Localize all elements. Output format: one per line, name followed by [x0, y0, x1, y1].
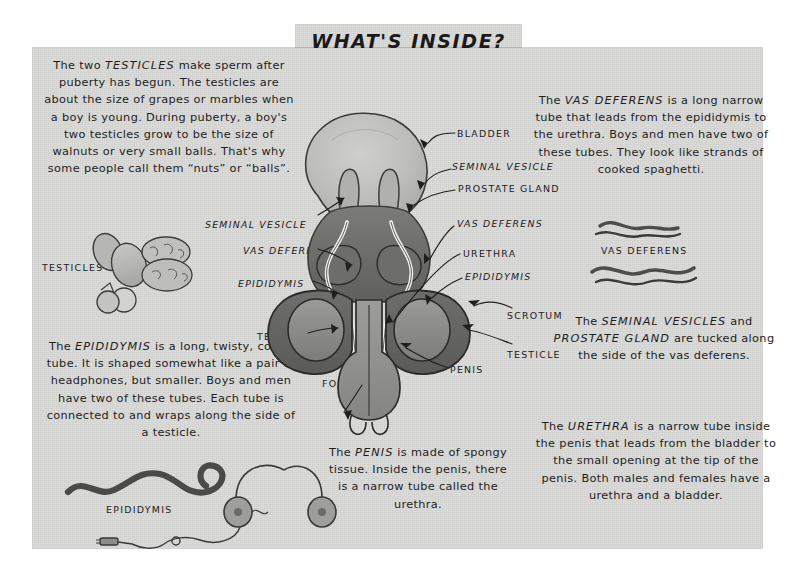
- caption-vas-deferens: VAS DEFERENS: [601, 245, 688, 256]
- label-scrotum: SCROTUM: [507, 310, 563, 321]
- label-testicle-left: TESTICLE: [257, 331, 311, 342]
- label-vas-deferens-right: VAS DEFERENS: [457, 218, 543, 229]
- label-prostate-gland: PROSTATE GLAND: [458, 183, 560, 194]
- caption-epididymis: EPIDIDYMIS: [106, 504, 173, 515]
- label-penis: PENIS: [450, 364, 484, 375]
- caption-testicles: TESTICLES: [42, 262, 103, 273]
- label-epididymis-left: EPIDIDYMIS: [238, 278, 305, 289]
- paragraph-penis: The PENIS is made of spongy tissue. Insi…: [325, 444, 511, 513]
- paragraph-urethra: The URETHRA is a narrow tube inside the …: [534, 418, 778, 504]
- paragraph-epididymis: The EPIDIDYMIS is a long, twisty, coiled…: [42, 338, 300, 441]
- label-seminal-vesicle-right: SEMINAL VESICLE: [452, 161, 554, 172]
- page-title: WHAT'S INSIDE?: [296, 30, 521, 52]
- paragraph-testicles: The two TESTICLES make sperm after puber…: [44, 57, 294, 177]
- label-seminal-vesicle-left: SEMINAL VESICLE: [205, 219, 307, 230]
- paragraph-vas-deferens: The VAS DEFERENS is a long narrow tube t…: [526, 92, 776, 178]
- label-testicle-right: TESTICLE: [507, 349, 561, 360]
- illustrated-page: WHAT'S INSIDE? The two TESTICLES make sp…: [0, 0, 794, 561]
- paragraph-seminal-vesicles: The SEMINAL VESICLES and PROSTATE GLAND …: [548, 313, 780, 365]
- label-epididymis-right: EPIDIDYMIS: [465, 271, 532, 282]
- label-vas-deferens-left: VAS DEFERENS: [243, 245, 329, 256]
- label-foreskin: FORESKIN: [322, 378, 379, 389]
- label-bladder: BLADDER: [457, 128, 511, 139]
- label-urethra: URETHRA: [463, 248, 516, 259]
